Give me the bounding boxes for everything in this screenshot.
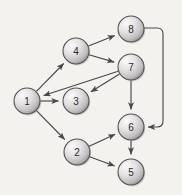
graph-edge-2-to-5	[90, 157, 115, 166]
node-circle-8[interactable]	[118, 16, 144, 42]
edges-layer	[36, 28, 163, 166]
graph-edge-1-to-2	[36, 111, 64, 140]
graph-node-6[interactable]: 6	[118, 114, 145, 141]
node-circle-6[interactable]	[118, 114, 144, 140]
node-circle-5[interactable]	[118, 159, 144, 185]
graph-edge-7-to-3	[91, 74, 120, 92]
graph-edge-8-to-6	[144, 28, 163, 127]
directed-graph-figure: 12345678	[0, 0, 182, 195]
graph-canvas: 12345678	[0, 0, 182, 195]
graph-node-7[interactable]: 7	[118, 54, 145, 81]
node-circle-7[interactable]	[118, 54, 144, 80]
graph-node-3[interactable]: 3	[63, 88, 90, 115]
node-circle-4[interactable]	[63, 38, 89, 64]
graph-edge-4-to-8	[89, 35, 115, 45]
node-circle-1[interactable]	[14, 88, 40, 114]
graph-edge-2-to-6	[89, 134, 115, 146]
node-circle-3[interactable]	[63, 88, 89, 114]
graph-node-4[interactable]: 4	[63, 38, 90, 65]
graph-node-1[interactable]: 1	[14, 88, 41, 115]
graph-edge-1-to-4	[36, 63, 63, 91]
node-circle-2[interactable]	[64, 139, 90, 165]
graph-node-2[interactable]: 2	[64, 139, 91, 166]
graph-node-5[interactable]: 5	[118, 159, 145, 186]
graph-node-8[interactable]: 8	[118, 16, 145, 43]
graph-edge-4-to-7	[89, 55, 114, 62]
nodes-layer: 12345678	[14, 16, 145, 186]
